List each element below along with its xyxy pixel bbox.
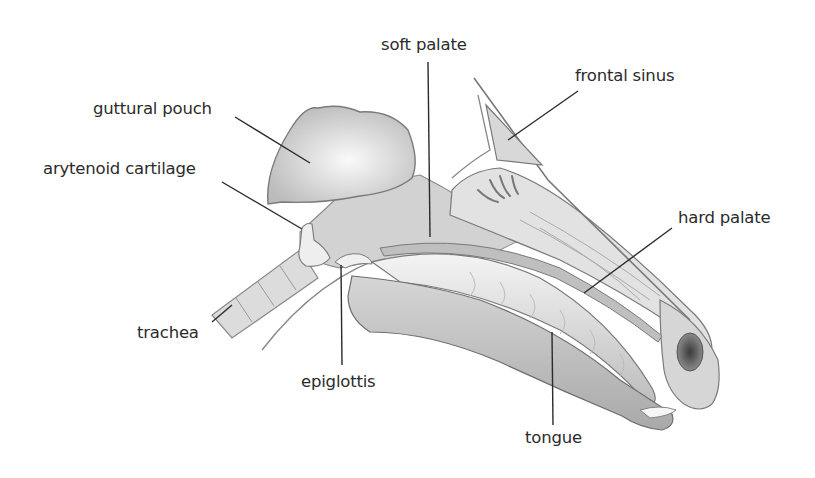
horse-head-illustration <box>0 0 815 478</box>
leader-line-tongue <box>552 332 553 425</box>
label-trachea: trachea <box>137 325 199 342</box>
label-arytenoid-cartilage: arytenoid cartilage <box>43 161 196 178</box>
leader-line-epiglottis <box>341 265 342 365</box>
label-soft-palate: soft palate <box>381 37 467 54</box>
nostril <box>677 333 703 371</box>
anatomy-diagram: soft palate frontal sinus guttural pouch… <box>0 0 815 478</box>
label-guttural-pouch: guttural pouch <box>93 101 212 118</box>
label-epiglottis: epiglottis <box>301 374 375 391</box>
label-hard-palate: hard palate <box>678 210 770 227</box>
leader-line-frontal-sinus <box>508 91 578 140</box>
label-tongue: tongue <box>525 430 582 447</box>
label-frontal-sinus: frontal sinus <box>575 68 674 85</box>
